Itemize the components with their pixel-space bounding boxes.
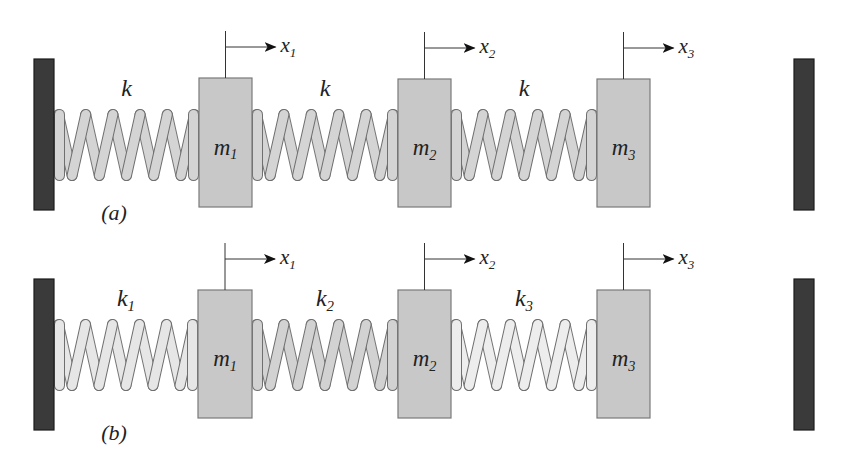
system-a bbox=[34, 31, 814, 210]
mass-label-symbol: m bbox=[612, 346, 629, 371]
mass-label-symbol: m bbox=[612, 135, 629, 160]
displacement-label: x3 bbox=[679, 247, 695, 268]
spring-label-symbol: k bbox=[117, 285, 128, 311]
displacement-symbol: x bbox=[679, 34, 688, 58]
displacement-label: x3 bbox=[679, 36, 695, 57]
mass-label-subscript: 1 bbox=[230, 357, 237, 373]
mass-label-symbol: m bbox=[413, 346, 430, 371]
spring-label-subscript: 2 bbox=[327, 298, 334, 314]
right-wall bbox=[794, 279, 814, 430]
spring-label: k3 bbox=[515, 286, 533, 310]
displacement-subscript: 1 bbox=[290, 45, 297, 60]
spring-label-symbol: k bbox=[519, 75, 530, 101]
displacement-label: x1 bbox=[280, 247, 296, 268]
spring-label-symbol: k bbox=[320, 75, 331, 101]
spring-1 bbox=[59, 325, 194, 386]
mass-label-subscript: 1 bbox=[230, 146, 237, 162]
mass-label-subscript: 3 bbox=[628, 146, 635, 162]
left-wall bbox=[34, 279, 54, 430]
mass-label-subscript: 3 bbox=[628, 357, 635, 373]
diagram-canvas bbox=[0, 0, 846, 472]
spring-3 bbox=[456, 115, 593, 176]
displacement-subscript: 3 bbox=[688, 257, 695, 272]
spring-label: k bbox=[121, 76, 132, 100]
spring-label-symbol: k bbox=[515, 285, 526, 311]
displacement-subscript: 3 bbox=[688, 46, 695, 61]
spring-label: k bbox=[519, 76, 530, 100]
mass-label-subscript: 2 bbox=[429, 146, 436, 162]
left-wall bbox=[34, 59, 54, 210]
mass-label-symbol: m bbox=[214, 134, 231, 159]
spring-label: k2 bbox=[316, 286, 334, 310]
mass-label: m2 bbox=[413, 136, 437, 159]
spring-label: k bbox=[320, 76, 331, 100]
case-label: (a) bbox=[101, 202, 127, 224]
spring-mass-diagram: kkkm1x1m2x2m3x3(a)k1k2k3m1x1m2x2m3x3(b) bbox=[0, 0, 846, 472]
spring-label-subscript: 3 bbox=[526, 298, 533, 314]
spring-2 bbox=[257, 325, 394, 386]
displacement-symbol: x bbox=[480, 245, 489, 269]
displacement-label: x2 bbox=[480, 36, 496, 57]
spring-label-symbol: k bbox=[121, 75, 132, 101]
displacement-subscript: 2 bbox=[489, 46, 496, 61]
case-label: (b) bbox=[101, 422, 127, 444]
displacement-label: x1 bbox=[281, 35, 297, 56]
displacement-label: x2 bbox=[480, 247, 496, 268]
displacement-subscript: 2 bbox=[489, 257, 496, 272]
displacement-subscript: 1 bbox=[289, 257, 296, 272]
right-wall bbox=[794, 59, 814, 210]
displacement-symbol: x bbox=[480, 34, 489, 58]
displacement-symbol: x bbox=[280, 245, 289, 269]
system-b bbox=[34, 243, 814, 430]
spring-3 bbox=[456, 325, 593, 386]
spring-label: k1 bbox=[117, 286, 135, 310]
displacement-symbol: x bbox=[679, 245, 688, 269]
spring-2 bbox=[257, 115, 394, 176]
mass-label: m3 bbox=[612, 136, 636, 159]
spring-1 bbox=[59, 115, 195, 176]
mass-label-symbol: m bbox=[413, 135, 430, 160]
mass-label: m3 bbox=[612, 347, 636, 370]
mass-label: m2 bbox=[413, 347, 437, 370]
spring-label-subscript: 1 bbox=[128, 298, 135, 314]
mass-label: m1 bbox=[214, 135, 238, 158]
mass-label-subscript: 2 bbox=[429, 357, 436, 373]
spring-label-symbol: k bbox=[316, 285, 327, 311]
mass-label: m1 bbox=[213, 347, 237, 370]
displacement-symbol: x bbox=[281, 33, 290, 57]
mass-label-symbol: m bbox=[213, 346, 230, 371]
